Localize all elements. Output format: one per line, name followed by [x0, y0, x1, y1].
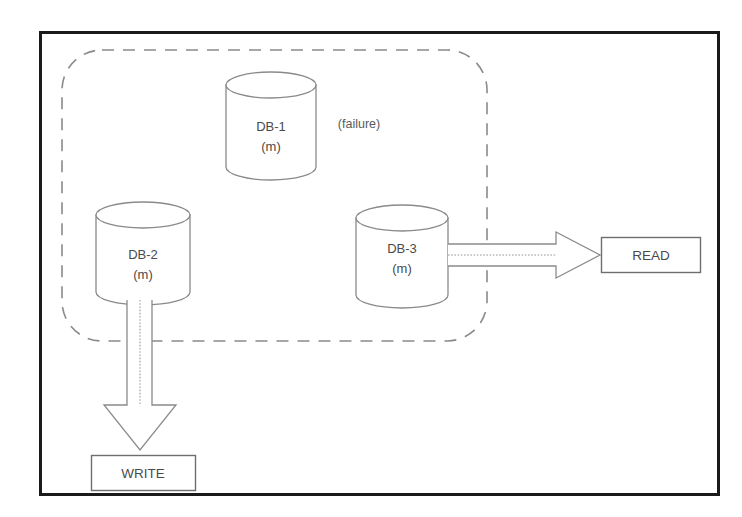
db-3-sublabel: (m) — [392, 261, 412, 276]
db-1-label: DB-1 — [256, 119, 286, 134]
db-1-failure-note: (failure) — [338, 117, 380, 131]
db-2-node[interactable]: DB-2 (m) — [96, 202, 190, 305]
db-3-label: DB-3 — [387, 241, 417, 256]
read-box[interactable]: READ — [602, 238, 701, 273]
db-1-node[interactable]: DB-1 (m) — [226, 72, 316, 180]
diagram-canvas: DB-1 (m) (failure) DB-2 (m) DB-3 (m) REA… — [0, 0, 742, 517]
db-3-top — [356, 205, 448, 231]
db-2-top — [96, 202, 190, 228]
read-box-label: READ — [632, 248, 670, 263]
db-2-label: DB-2 — [128, 247, 158, 262]
diagram-svg: DB-1 (m) (failure) DB-2 (m) DB-3 (m) REA… — [0, 0, 742, 517]
db-2-sublabel: (m) — [133, 267, 153, 282]
db-1-sublabel: (m) — [261, 139, 281, 154]
db-3-node[interactable]: DB-3 (m) — [356, 205, 448, 308]
write-box-label: WRITE — [121, 466, 165, 481]
db-1-top — [226, 72, 316, 98]
write-box[interactable]: WRITE — [92, 456, 196, 491]
